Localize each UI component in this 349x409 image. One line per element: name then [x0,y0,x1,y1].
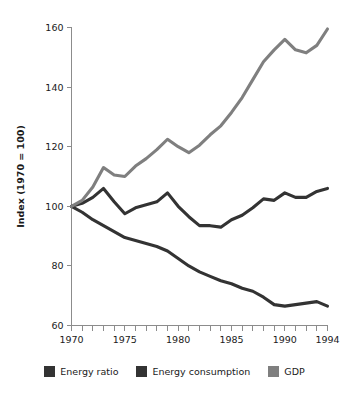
y-tick-label: 100 [45,201,63,212]
legend-swatch-gdp [268,366,279,377]
line-chart: 6080100120140160197019751980198519901994… [0,0,349,409]
chart-series [72,29,328,306]
legend-item-gdp[interactable]: GDP [268,366,304,377]
chart-labels: 6080100120140160197019751980198519901994… [15,22,340,345]
y-tick-label: 80 [51,260,63,271]
legend-item-energy-consumption[interactable]: Energy consumption [136,366,250,377]
chart-legend: Energy ratio Energy consumption GDP [0,366,349,377]
y-axis-title: Index (1970 = 100) [15,125,26,228]
chart-figure: 6080100120140160197019751980198519901994… [0,0,349,409]
series-line-gdp [72,29,328,206]
legend-item-energy-ratio[interactable]: Energy ratio [44,366,118,377]
series-line-energy-ratio [72,206,328,306]
x-tick-label: 1985 [219,334,243,345]
x-tick-label: 1970 [59,334,83,345]
legend-label-energy-consumption: Energy consumption [152,366,250,377]
y-tick-label: 120 [45,141,63,152]
legend-swatch-energy-ratio [44,366,55,377]
legend-label-gdp: GDP [284,366,304,377]
x-tick-label: 1994 [315,334,339,345]
y-tick-label: 160 [45,22,63,33]
x-tick-label: 1980 [166,334,190,345]
y-tick-label: 60 [51,320,63,331]
chart-axes [67,28,328,331]
x-tick-label: 1990 [273,334,297,345]
series-line-energy-consumption [72,188,328,227]
x-tick-label: 1975 [113,334,137,345]
legend-label-energy-ratio: Energy ratio [60,366,118,377]
legend-swatch-energy-consumption [136,366,147,377]
y-tick-label: 140 [45,82,63,93]
